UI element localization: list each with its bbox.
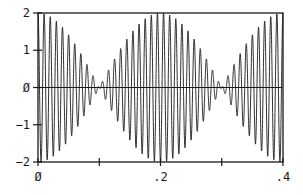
- x-tick-label: Ø: [34, 170, 42, 184]
- beat-signal-chart: 21Ø−1−2 Ø.2.4: [0, 0, 303, 195]
- x-tick-label: .4: [276, 170, 290, 184]
- y-tick-label: −1: [16, 118, 30, 132]
- y-tick-label: −2: [16, 155, 30, 169]
- y-tick-label: Ø: [23, 81, 31, 95]
- y-tick-label: 2: [23, 6, 30, 20]
- plot-frame: [38, 13, 283, 162]
- x-tick-label: .2: [153, 170, 167, 184]
- y-tick-label: 1: [23, 43, 30, 57]
